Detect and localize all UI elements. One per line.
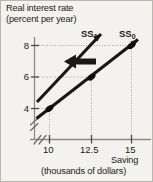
ytick-label-4: 4 (15, 104, 29, 114)
xtick-label-15: 15 (125, 145, 136, 155)
curve-label-ss0: SS0 (119, 29, 136, 40)
ytick-label-6: 6 (15, 72, 29, 82)
curve-label-ss1-subscript: 1 (94, 33, 98, 40)
curve-label-ss0-subscript: 0 (132, 33, 136, 40)
curve-label-ss0-text: SS (119, 28, 132, 39)
xtick-label-125: 12.5 (80, 145, 99, 155)
curve-label-ss1: SS1 (81, 29, 98, 40)
ytick-label-8: 8 (15, 41, 29, 51)
xtick-label-10: 10 (43, 145, 54, 155)
x-axis-title-line2: (thousands of dollars) (41, 166, 126, 177)
curve-label-ss1-text: SS (81, 28, 94, 39)
x-axis-title-line1: Saving (111, 155, 138, 166)
chart-figure: Real interest rate (percent per year) (0, 0, 153, 182)
